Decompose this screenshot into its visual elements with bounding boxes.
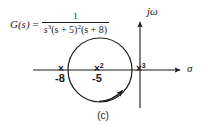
- pole-multiplicity-minus-5: 2: [100, 62, 104, 69]
- pole-label-minus-8: -8: [55, 73, 65, 84]
- denominator-term1: (s + 5): [51, 24, 77, 35]
- j-omega-axis-label: jω: [147, 5, 158, 17]
- fraction-denominator: s3(s + 5)2(s + 8): [42, 23, 109, 35]
- sigma-axis-label: σ: [187, 62, 192, 74]
- transfer-function-fraction: 1 s3(s + 5)2(s + 8): [42, 12, 109, 35]
- pole-multiplicity-origin: 3: [142, 62, 146, 69]
- root-pole-zero-figure: G(s) = 1 s3(s + 5)2(s + 8) jω σ × -8 ×2 …: [0, 0, 206, 126]
- figure-caption: (c): [0, 110, 206, 121]
- transfer-function-lhs: G(s): [10, 18, 30, 30]
- equals-sign: =: [33, 18, 39, 30]
- pole-label-minus-5: -5: [92, 73, 102, 84]
- fraction-numerator: 1: [69, 12, 82, 22]
- transfer-function-formula: G(s) = 1 s3(s + 5)2(s + 8): [10, 12, 109, 35]
- denominator-term2: (s + 8): [81, 24, 107, 35]
- pole-marker-origin: ×3: [136, 64, 146, 74]
